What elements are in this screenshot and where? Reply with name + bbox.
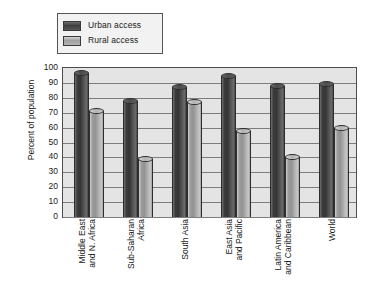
x-category-label-line: Africa — [136, 219, 146, 241]
bar-urban-access — [270, 86, 285, 217]
chart-legend: Urban access Rural access — [57, 13, 163, 54]
legend-swatch-rural-icon — [63, 36, 81, 46]
x-category-label-line: Latin America — [273, 219, 283, 271]
x-category-label: East Asiaand Pacific — [210, 219, 259, 261]
legend-item-urban-access: Urban access — [63, 18, 157, 33]
y-tick-label: 20 — [49, 182, 58, 191]
bar-group — [63, 68, 112, 217]
y-tick-label: 100 — [44, 63, 58, 72]
gridline — [63, 217, 356, 218]
bar-rural-access — [334, 128, 349, 217]
bar-body — [139, 159, 152, 217]
bar-rural-access — [285, 157, 300, 217]
y-tick-label: 40 — [49, 152, 58, 161]
y-tick-label: 30 — [49, 167, 58, 176]
legend-label-urban-access: Urban access — [88, 21, 141, 30]
bar-group — [260, 68, 309, 217]
bar-body — [188, 102, 201, 217]
x-category-label-line: and Pacific — [234, 219, 244, 261]
x-category-label-line: and N. Africa — [87, 219, 97, 268]
bar-group — [211, 68, 260, 217]
bar-group — [161, 68, 210, 217]
bar-top-cap — [221, 73, 236, 79]
x-axis-category-labels: Middle Eastand N. AfricaSub-SaharanAfric… — [62, 219, 357, 301]
bar-series-container — [63, 68, 356, 217]
y-axis-tick-labels: 1009080706050403020100 — [24, 61, 58, 224]
y-tick-label: 70 — [49, 108, 58, 117]
x-category-label-line: South Asia — [180, 219, 190, 260]
y-tick-label: 80 — [49, 93, 58, 102]
bar-body — [335, 128, 348, 217]
plot-area — [62, 67, 357, 218]
legend-item-rural-access: Rural access — [63, 33, 157, 48]
bar-body — [320, 84, 333, 217]
bar-body — [286, 157, 299, 217]
x-category-label: Sub-SaharanAfrica — [111, 219, 160, 269]
y-tick-label: 60 — [49, 123, 58, 132]
bar-body — [90, 111, 103, 217]
bar-urban-access — [172, 87, 187, 217]
bar-top-cap — [123, 98, 138, 104]
bar-top-cap — [270, 83, 285, 89]
x-category-label: Latin Americaand Caribbean — [259, 219, 308, 275]
x-category-label-line: World — [327, 219, 337, 241]
bar-rural-access — [187, 102, 202, 217]
bar-body — [173, 87, 186, 217]
x-category-label-line: Middle East — [77, 219, 87, 263]
y-tick-label: 50 — [49, 138, 58, 147]
bar-body — [75, 73, 88, 218]
bar-group — [309, 68, 358, 217]
y-tick-label: 0 — [53, 212, 58, 221]
legend-swatch-urban-icon — [63, 21, 81, 31]
bar-body — [222, 76, 235, 218]
bar-body — [124, 101, 137, 217]
legend-label-rural-access: Rural access — [88, 36, 138, 45]
bar-top-cap — [138, 156, 153, 162]
bar-rural-access — [138, 159, 153, 217]
x-category-label-line: and Caribbean — [283, 219, 293, 275]
bar-rural-access — [89, 111, 104, 217]
y-tick-label: 90 — [49, 78, 58, 87]
x-category-label: Middle Eastand N. Africa — [62, 219, 111, 268]
x-category-label: World — [308, 219, 357, 241]
bar-urban-access — [74, 73, 89, 218]
bar-top-cap — [236, 128, 251, 134]
bar-urban-access — [123, 101, 138, 217]
bar-urban-access — [221, 76, 236, 218]
x-category-label-line: East Asia — [224, 219, 234, 254]
y-tick-label: 10 — [49, 197, 58, 206]
bar-body — [237, 131, 250, 217]
bar-chart: Urban access Rural access Percent of pop… — [0, 0, 368, 302]
x-category-label: South Asia — [160, 219, 209, 260]
bar-urban-access — [319, 84, 334, 217]
bar-group — [112, 68, 161, 217]
bar-rural-access — [236, 131, 251, 217]
bar-top-cap — [334, 125, 349, 131]
bar-top-cap — [74, 70, 89, 76]
x-category-label-line: Sub-Saharan — [126, 219, 136, 269]
bar-body — [271, 86, 284, 217]
